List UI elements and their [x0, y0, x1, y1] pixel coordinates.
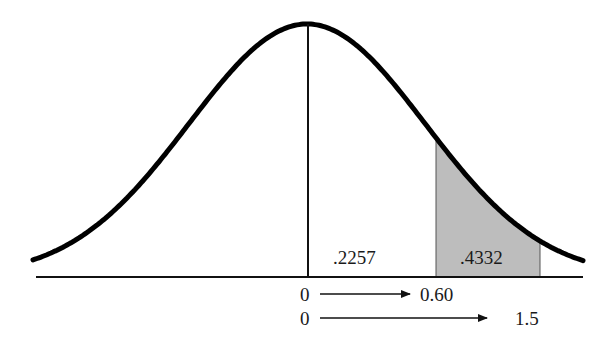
arrow1-start-label: 0	[300, 284, 310, 305]
region-label-4332: .4332	[460, 247, 503, 268]
arrow1-end-label: 0.60	[420, 284, 453, 305]
arrow2-start-label: 0	[300, 308, 310, 329]
region-label-2257: .2257	[333, 247, 376, 268]
normal-curve-chart: .2257 .4332 0 0.60 0 1.5	[0, 0, 609, 345]
arrow2-end-label: 1.5	[515, 308, 539, 329]
